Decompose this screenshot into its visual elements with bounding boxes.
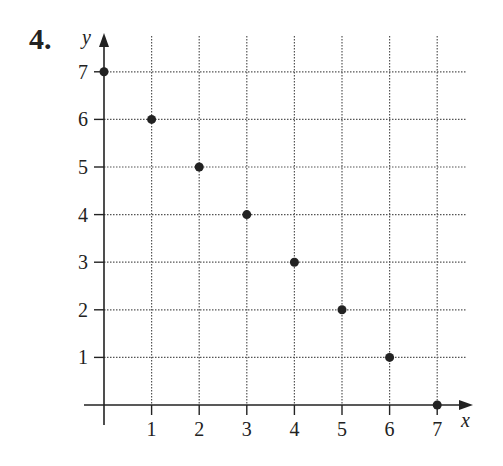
data-point xyxy=(385,353,394,362)
data-point xyxy=(242,210,251,219)
tick-labels: xy12345671234567 xyxy=(78,26,470,440)
y-tick-label: 4 xyxy=(78,204,88,226)
x-tick-label: 7 xyxy=(432,418,442,440)
x-tick-label: 5 xyxy=(337,418,347,440)
data-point xyxy=(338,305,347,314)
grid-lines xyxy=(104,36,467,405)
y-tick-label: 2 xyxy=(78,299,88,321)
x-tick-label: 6 xyxy=(385,418,395,440)
data-point xyxy=(147,115,156,124)
x-tick-label: 4 xyxy=(289,418,299,440)
x-tick-label: 2 xyxy=(194,418,204,440)
scatter-chart: xy12345671234567 xyxy=(0,0,503,466)
axes xyxy=(84,33,473,425)
x-tick-label: 1 xyxy=(147,418,157,440)
x-axis-label: x xyxy=(460,409,470,431)
tick-marks xyxy=(94,72,437,415)
data-points xyxy=(100,67,442,409)
y-axis-label: y xyxy=(80,26,91,49)
data-point xyxy=(433,401,442,410)
y-tick-label: 1 xyxy=(78,346,88,368)
x-tick-label: 3 xyxy=(242,418,252,440)
y-tick-label: 6 xyxy=(78,108,88,130)
y-axis-arrow-icon xyxy=(99,33,109,47)
data-point xyxy=(195,163,204,172)
y-tick-label: 3 xyxy=(78,251,88,273)
data-point xyxy=(100,67,109,76)
y-tick-label: 7 xyxy=(78,61,88,83)
data-point xyxy=(290,258,299,267)
y-tick-label: 5 xyxy=(78,156,88,178)
